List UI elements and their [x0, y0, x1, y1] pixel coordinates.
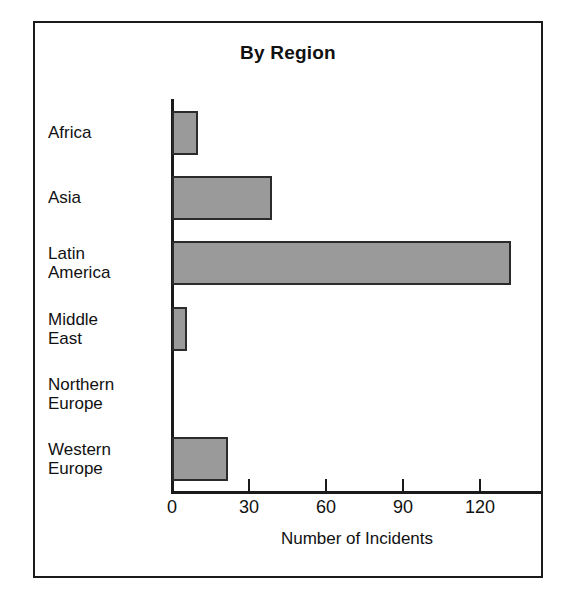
- plot-area: 0306090120 AfricaAsiaLatinAmericaMiddleE…: [0, 0, 575, 610]
- x-axis-line: [171, 491, 541, 494]
- category-label-northern-europe: NorthernEurope: [48, 375, 164, 413]
- x-tick-label-30: 30: [219, 497, 279, 518]
- category-label-western-europe: WesternEurope: [48, 440, 164, 478]
- category-label-line: Asia: [48, 188, 164, 207]
- category-label-latin-america: LatinAmerica: [48, 244, 164, 282]
- x-tick-label-120: 120: [450, 497, 510, 518]
- bar-western-europe: [172, 437, 228, 481]
- category-label-line: Europe: [48, 394, 164, 413]
- category-label-line: Africa: [48, 123, 164, 142]
- bar-middle-east: [172, 307, 187, 351]
- x-tick-mark-90: [402, 479, 404, 492]
- bar-africa: [172, 111, 198, 155]
- category-label-line: Latin: [48, 244, 164, 263]
- category-label-africa: Africa: [48, 123, 164, 142]
- x-tick-label-60: 60: [296, 497, 356, 518]
- category-label-line: Western: [48, 440, 164, 459]
- category-label-middle-east: MiddleEast: [48, 310, 164, 348]
- y-axis-line: [171, 99, 174, 494]
- bar-latin-america: [172, 241, 511, 285]
- x-tick-label-0: 0: [142, 497, 202, 518]
- x-tick-mark-30: [248, 479, 250, 492]
- figure-container: By Region 0306090120 AfricaAsiaLatinAmer…: [0, 0, 575, 610]
- x-tick-mark-120: [479, 479, 481, 492]
- category-label-asia: Asia: [48, 188, 164, 207]
- x-tick-mark-60: [325, 479, 327, 492]
- category-label-line: Middle: [48, 310, 164, 329]
- category-label-line: America: [48, 263, 164, 282]
- category-label-line: Europe: [48, 459, 164, 478]
- x-tick-label-90: 90: [373, 497, 433, 518]
- category-label-line: Northern: [48, 375, 164, 394]
- category-label-line: East: [48, 329, 164, 348]
- bar-asia: [172, 176, 272, 220]
- x-axis-title: Number of Incidents: [172, 529, 542, 549]
